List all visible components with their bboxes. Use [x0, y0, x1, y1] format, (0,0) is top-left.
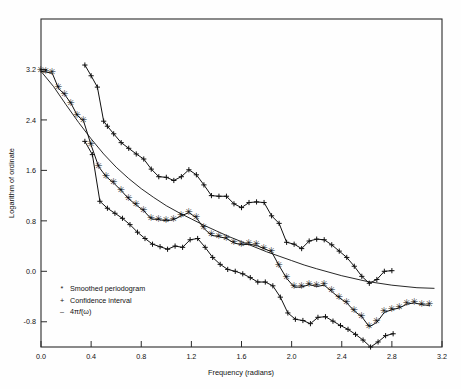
star-marker: ✳	[67, 97, 75, 108]
legend-marker-0: *	[61, 284, 64, 293]
legend-marker-2: –	[60, 307, 64, 316]
y-axis-title: Logarithm of ordinate	[7, 148, 16, 218]
x-tick-label: 0.0	[36, 352, 46, 361]
legend-label-0: Smoothed periodogram	[70, 284, 145, 293]
star-marker: ✳	[275, 259, 283, 270]
y-tick-label: 3.2	[26, 65, 36, 74]
x-tick-label: 0.8	[136, 352, 146, 361]
y-tick-label: -0.8	[24, 317, 36, 326]
star-marker: ✳	[48, 66, 56, 77]
x-tick-label: 1.6	[237, 352, 247, 361]
y-tick-label: 2.4	[26, 116, 36, 125]
x-tick-label: 1.2	[186, 352, 196, 361]
legend-label-2: 4πf(ω)	[70, 307, 91, 316]
legend-label-1: Confidence interval	[70, 296, 132, 305]
y-tick-label: 0.8	[26, 217, 36, 226]
x-tick-label: 2.4	[337, 352, 347, 361]
star-marker: ✳	[373, 315, 381, 326]
figure-root: 0.00.40.81.21.62.02.42.83.2 3.22.41.60.8…	[0, 0, 461, 389]
star-marker: ✳	[80, 114, 88, 125]
spectral-density-chart: 0.00.40.81.21.62.02.42.83.2 3.22.41.60.8…	[0, 0, 461, 389]
x-tick-label: 2.0	[287, 352, 297, 361]
x-tick-label: 2.8	[387, 352, 397, 361]
legend-marker-1: +	[60, 296, 64, 305]
y-tick-label: 0.0	[26, 267, 36, 276]
star-marker: ✳	[425, 298, 433, 309]
x-axis-title: Frequency (radians)	[208, 368, 274, 377]
y-tick-label: 1.6	[26, 166, 36, 175]
figure-background	[0, 0, 461, 389]
x-tick-label: 3.2	[437, 352, 447, 361]
x-tick-label: 0.4	[86, 352, 96, 361]
